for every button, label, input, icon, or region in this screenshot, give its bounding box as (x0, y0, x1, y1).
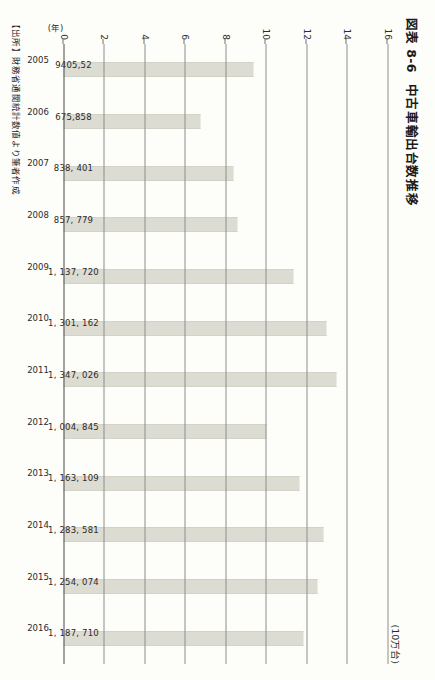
category-axis-tick: 2008 (23, 199, 63, 251)
category-axis-label: 2014 (27, 520, 49, 549)
tickmark-14 (346, 39, 347, 44)
category-axis-label: 2009 (27, 262, 49, 291)
bar-2007[interactable]: 838, 401 (63, 166, 233, 181)
category-axis-tick: 2006 (23, 96, 63, 148)
gridline-4 (144, 44, 145, 664)
bar-2009[interactable]: 1, 137, 720 (63, 269, 293, 284)
category-axis-label: 2016 (27, 624, 49, 653)
category-axis-tick: 2015 (23, 561, 63, 613)
category-axis-label: 2005 (27, 55, 49, 84)
tickmark-2 (103, 39, 104, 44)
bar-2012[interactable]: 1, 004, 845 (63, 424, 266, 439)
category-axis-tick: 2005 (23, 44, 63, 96)
gridline-14 (347, 44, 348, 664)
plot-canvas: 9405,52675,858838, 401857, 7791, 137, 72… (63, 44, 387, 664)
category-axis-label: 2007 (27, 159, 49, 188)
category-axis-label: 2011 (27, 365, 49, 394)
tickmark-10 (265, 39, 266, 44)
value-axis-unit-label: (10万台) (388, 624, 402, 664)
category-axis-tick: 2010 (23, 302, 63, 354)
bar-2015[interactable]: 1, 254, 074 (63, 579, 317, 594)
rotated-figure-stage: 図表 8-6 中古車輸出台数推移 (10万台) 0246810121416 94… (0, 0, 435, 680)
tickmark-16 (386, 39, 387, 44)
plot-body: 0246810121416 9405,52675,858838, 401857,… (63, 18, 387, 664)
category-axis-tick: 2012 (23, 406, 63, 458)
figure-container: 図表 8-6 中古車輸出台数推移 (10万台) 0246810121416 94… (0, 0, 435, 680)
category-axis-tick: 2009 (23, 251, 63, 303)
category-axis-tick: 2007 (23, 147, 63, 199)
gridline-8 (225, 44, 226, 664)
figure-number: 図表 8-6 (402, 18, 421, 73)
tickmark-12 (305, 39, 306, 44)
gridline-12 (306, 44, 307, 664)
category-axis-tick: 2014 (23, 509, 63, 561)
source-note: 【出所】財務省通関統計数値より筆者作成 (10, 20, 22, 664)
bar-2010[interactable]: 1, 301, 162 (63, 321, 326, 336)
page-title: 中古車輸出台数推移 (402, 84, 421, 206)
tickmark-6 (184, 39, 185, 44)
category-axis-tick: 2013 (23, 457, 63, 509)
bar-2013[interactable]: 1, 163, 109 (63, 476, 299, 491)
category-axis-label: 2015 (27, 572, 49, 601)
category-axis-label: 2008 (27, 210, 49, 239)
scanned-page: 図表 8-6 中古車輸出台数推移 (10万台) 0246810121416 94… (0, 0, 435, 680)
gridline-2 (104, 44, 105, 664)
category-axis-tick: 2011 (23, 354, 63, 406)
category-axis-tick: 2016 (23, 612, 63, 664)
bar-2006[interactable]: 675,858 (63, 114, 200, 129)
category-axis-label: 2010 (27, 314, 49, 343)
gridline-10 (266, 44, 267, 664)
gridline-16 (387, 44, 388, 664)
category-axis-label: 2013 (27, 469, 49, 498)
category-axis-label: 2012 (27, 417, 49, 446)
category-axis-caption: (年) (47, 21, 63, 33)
figure-title-row: 図表 8-6 中古車輸出台数推移 (402, 18, 421, 664)
category-axis: (年) 200520062007200820092010201120122013… (23, 44, 63, 664)
plot-wrapper: (10万台) 0246810121416 9405,52675,858838, … (23, 18, 400, 664)
category-axis-label: 2006 (27, 107, 49, 136)
tickmark-8 (224, 39, 225, 44)
bar-2014[interactable]: 1, 283, 581 (63, 527, 323, 542)
bar-2016[interactable]: 1, 187, 710 (63, 631, 304, 646)
tickmark-4 (143, 39, 144, 44)
gridline-6 (185, 44, 186, 664)
bar-2008[interactable]: 857, 779 (63, 217, 237, 232)
